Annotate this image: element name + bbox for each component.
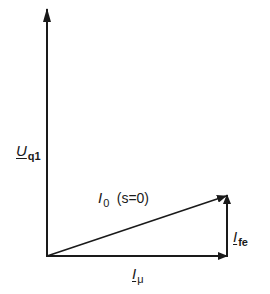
label-imu: Iμ [132,266,144,282]
label-i0: I0 (s=0) [98,190,149,206]
label-uq1: Uq1 [16,143,41,159]
label-ife: Ife [233,229,248,245]
